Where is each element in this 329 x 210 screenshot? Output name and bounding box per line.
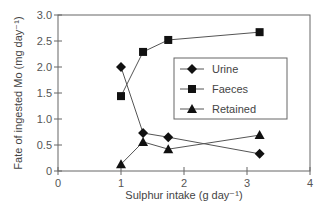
y-axis-title: Fate of ingested Mo (mg day⁻¹) — [12, 16, 24, 169]
x-tick-label: 0 — [55, 177, 61, 189]
square-marker-icon — [164, 36, 172, 44]
y-tick-label: 1.0 — [37, 113, 52, 125]
square-marker-icon — [117, 92, 125, 100]
y-tick-label: 2.5 — [37, 35, 52, 47]
legend-label: Urine — [212, 63, 238, 75]
y-tick-label: 1.5 — [37, 87, 52, 99]
legend: UrineFaecesRetained — [174, 58, 287, 119]
y-tick-label: 2.0 — [37, 61, 52, 73]
y-tick-label: 0 — [46, 165, 52, 177]
legend-label: Retained — [212, 103, 256, 115]
line-chart: 00.51.01.52.02.53.0 01234 Fate of ingest… — [0, 0, 329, 210]
x-axis-title: Sulphur intake (g day⁻¹) — [125, 189, 242, 201]
x-tick-label: 3 — [244, 177, 250, 189]
diamond-marker-icon — [116, 62, 126, 72]
diamond-marker-icon — [163, 132, 173, 142]
y-tick-label: 0.5 — [37, 139, 52, 151]
square-marker-icon — [188, 85, 196, 93]
diamond-marker-icon — [138, 128, 148, 138]
x-axis: 01234 — [55, 167, 313, 189]
square-marker-icon — [256, 28, 264, 36]
series-retained — [116, 130, 265, 168]
x-tick-label: 4 — [307, 177, 313, 189]
triangle-marker-icon — [255, 130, 265, 139]
square-marker-icon — [139, 48, 147, 56]
x-tick-label: 2 — [181, 177, 187, 189]
legend-label: Faeces — [212, 83, 249, 95]
x-tick-label: 1 — [118, 177, 124, 189]
diamond-marker-icon — [255, 149, 265, 159]
triangle-marker-icon — [138, 137, 148, 146]
y-tick-label: 3.0 — [37, 9, 52, 21]
